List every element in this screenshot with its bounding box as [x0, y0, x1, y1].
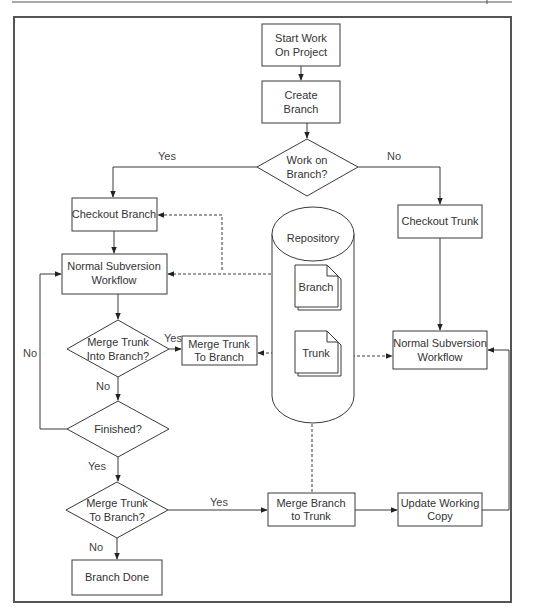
edge-label-work-no: No: [387, 150, 401, 162]
edge-label-finished-no: No: [23, 347, 37, 359]
decision-work-on-branch-line2: Branch?: [287, 168, 328, 180]
node-start: Start Work On Project: [262, 24, 340, 66]
node-workflow-right-line1: Normal Subversion: [393, 337, 487, 349]
node-merge-branch-to-trunk-line1: Merge Branch: [276, 497, 345, 509]
edge-label-merge-to-no: No: [89, 541, 103, 553]
edge-work-yes: [113, 167, 257, 197]
node-create-branch-line2: Branch: [284, 103, 319, 115]
node-start-line2: On Project: [275, 46, 327, 58]
node-workflow-left: Normal Subversion Workflow: [62, 254, 167, 294]
node-update-working-copy-line1: Update Working: [401, 497, 480, 509]
edge-label-work-yes: Yes: [158, 150, 176, 162]
edge-label-merge-to-yes: Yes: [210, 496, 228, 508]
decision-merge-to-branch: Merge Trunk To Branch?: [66, 482, 168, 538]
node-branch-done-label: Branch Done: [85, 571, 149, 583]
decision-work-on-branch-line1: Work on: [287, 154, 328, 166]
node-merge-trunk-to-branch: Merge Trunk To Branch: [182, 336, 257, 365]
node-start-line1: Start Work: [275, 32, 327, 44]
node-merge-trunk-to-branch-line1: Merge Trunk: [188, 338, 250, 350]
node-update-working-copy: Update Working Copy: [398, 493, 482, 526]
decision-merge-to-branch-line1: Merge Trunk: [86, 497, 148, 509]
node-update-working-copy-line2: Copy: [427, 510, 453, 522]
node-workflow-right: Normal Subversion Workflow: [393, 331, 487, 369]
decision-finished: Finished?: [67, 401, 169, 457]
edge-label-merge-into-yes: Yes: [164, 332, 182, 344]
repository-database: Repository: [272, 207, 354, 423]
decision-merge-to-branch-line2: To Branch?: [89, 511, 145, 523]
node-merge-trunk-to-branch-line2: To Branch: [194, 351, 244, 363]
document-branch-label: Branch: [299, 281, 334, 293]
node-branch-done: Branch Done: [72, 560, 162, 595]
node-workflow-right-line2: Workflow: [417, 351, 462, 363]
node-workflow-left-line1: Normal Subversion: [67, 260, 161, 272]
node-merge-branch-to-trunk-line2: to Trunk: [291, 510, 331, 522]
decision-merge-into-branch: Merge Trunk Into Branch?: [67, 320, 169, 377]
repository-label: Repository: [287, 232, 340, 244]
edge-label-merge-into-no: No: [96, 380, 110, 392]
edge-update-workflow: [482, 350, 509, 510]
node-checkout-branch-label: Checkout Branch: [72, 208, 156, 220]
document-trunk-label: Trunk: [302, 347, 330, 359]
edge-work-no: [358, 167, 440, 204]
flowchart: Start Work On Project Create Branch Work…: [0, 0, 535, 615]
document-trunk: Trunk: [295, 331, 341, 376]
node-merge-branch-to-trunk: Merge Branch to Trunk: [268, 493, 355, 526]
decision-finished-label: Finished?: [94, 423, 142, 435]
node-create-branch: Create Branch: [262, 81, 340, 123]
node-create-branch-line1: Create: [284, 89, 317, 101]
document-branch: Branch: [295, 265, 341, 310]
decision-merge-into-branch-line1: Merge Trunk: [87, 336, 149, 348]
decision-work-on-branch: Work on Branch?: [257, 139, 358, 196]
node-checkout-trunk: Checkout Trunk: [398, 205, 482, 238]
edge-finished-no: [40, 274, 67, 429]
edge-label-finished-yes: Yes: [88, 460, 106, 472]
edge-repo-checkout-branch: [158, 215, 222, 270]
node-checkout-trunk-label: Checkout Trunk: [401, 215, 479, 227]
node-workflow-left-line2: Workflow: [91, 274, 136, 286]
decision-merge-into-branch-line2: Into Branch?: [87, 350, 149, 362]
node-checkout-branch: Checkout Branch: [72, 198, 157, 231]
